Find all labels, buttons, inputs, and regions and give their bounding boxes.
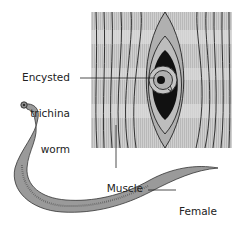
label-line: Female — [179, 205, 234, 217]
label-encysted-trichina-worm: Encysted trichina worm — [14, 47, 70, 167]
label-line: Muscle — [107, 182, 143, 194]
label-muscle: Muscle — [100, 170, 143, 194]
label-line: trichina — [14, 107, 70, 119]
label-line: worm — [14, 143, 70, 155]
muscle-tissue-block — [91, 12, 232, 148]
label-line: Encysted — [14, 71, 70, 83]
label-female-hookworm: Female hookworm — [179, 181, 234, 229]
